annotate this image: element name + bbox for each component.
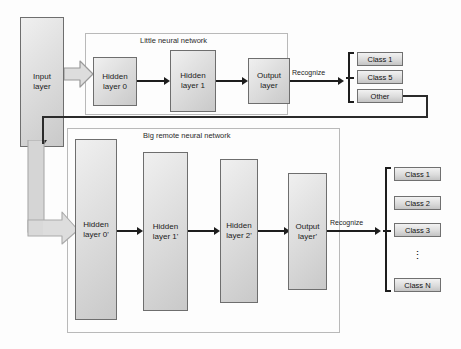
output-layer-label-line2: layer	[260, 81, 277, 90]
node-hidden-layer-0-prime: Hidden layer 0'	[75, 139, 117, 320]
node-hidden-layer-1: Hidden layer 1	[170, 50, 216, 112]
node-output-layer-little: Output layer	[248, 58, 290, 104]
output-layer-prime-label-line1: Output	[295, 222, 319, 231]
node-output-layer-prime: Output layer'	[288, 173, 327, 290]
diagram-canvas: Input layer Little neural network Hidden…	[0, 0, 461, 349]
hidden-layer-1-label-line2: layer 1	[181, 81, 205, 90]
edge-label-little-recognize: Recognize	[292, 69, 325, 76]
hidden-layer-0-prime-label-line1: Hidden	[83, 220, 108, 229]
arrowhead-little-recognize	[338, 77, 344, 85]
frame-title-big-remote-neural-network: Big remote neural network	[143, 131, 231, 140]
hidden-layer-1-prime-label-line1: Hidden	[153, 222, 178, 231]
chip-little-class-0[interactable]: Class 1	[357, 52, 403, 66]
bracket-tick-big	[383, 230, 391, 232]
edge-big-recognize	[327, 230, 377, 232]
edge-hidden2prime-to-outputprime	[258, 230, 286, 232]
bracket-tick-little	[346, 77, 354, 79]
block-arrow-input-to-little	[64, 60, 94, 88]
edge-label-big-recognize: Recognize	[330, 219, 363, 226]
block-arrow-input-to-big	[22, 140, 80, 245]
output-layer-prime-label-line2: layer'	[298, 232, 317, 241]
hidden-layer-2-prime-label-line1: Hidden	[226, 221, 251, 230]
frame-title-little-neural-network: Little neural network	[140, 36, 207, 45]
chip-big-class-1[interactable]: Class 2	[394, 196, 441, 210]
input-layer-label-line1: Input	[33, 72, 51, 81]
hidden-layer-1-label-line1: Hidden	[180, 71, 205, 80]
chip-big-class-0[interactable]: Class 1	[394, 167, 441, 181]
hidden-layer-0-prime-label-line2: layer 0'	[83, 230, 109, 239]
chip-big-class-n[interactable]: Class N	[394, 278, 441, 292]
edge-little-recognize	[290, 80, 340, 82]
node-hidden-layer-1-prime: Hidden layer 1'	[143, 152, 188, 311]
hidden-layer-1-prime-label-line2: layer 1'	[153, 232, 179, 241]
input-layer-label-line2: layer	[33, 82, 50, 91]
edge-hidden1prime-to-hidden2prime	[188, 230, 216, 232]
hidden-layer-0-label-line2: layer 0	[103, 82, 127, 91]
node-hidden-layer-0: Hidden layer 0	[93, 57, 137, 106]
hidden-layer-0-label-line1: Hidden	[102, 72, 127, 81]
big-classes-ellipsis: ⋮	[394, 252, 441, 259]
chip-big-class-2[interactable]: Class 3	[394, 223, 441, 237]
arrowhead-big-recognize	[375, 227, 381, 235]
output-layer-label-line1: Output	[257, 71, 281, 80]
edge-hidden1-to-output	[216, 80, 244, 82]
edge-hidden0-to-hidden1	[137, 80, 166, 82]
chip-little-class-2-other[interactable]: Other	[357, 89, 403, 103]
feedback-segment-right-down	[426, 95, 428, 118]
node-hidden-layer-2-prime: Hidden layer 2'	[220, 159, 258, 303]
feedback-segment-down-to-input	[42, 116, 44, 144]
chip-little-class-1[interactable]: Class 5	[357, 70, 403, 84]
hidden-layer-2-prime-label-line2: layer 2'	[226, 231, 252, 240]
feedback-segment-long-left	[42, 116, 427, 118]
feedback-segment-other-right	[403, 95, 428, 97]
edge-hidden0prime-to-hidden1prime	[117, 230, 139, 232]
